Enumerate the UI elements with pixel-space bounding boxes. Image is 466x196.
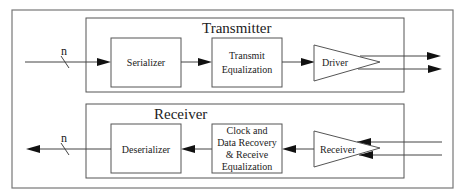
transmitter-section: Transmitter n Serializer Transmit Equali… [25, 18, 442, 92]
transmitter-title: Transmitter [202, 20, 271, 36]
receiver-amp-label: Receiver [320, 144, 356, 155]
serializer-label: Serializer [127, 57, 166, 68]
cdr-label-line1: Clock and [227, 125, 268, 136]
driver-label: Driver [322, 57, 349, 68]
rx-bus-width-label: n [61, 131, 67, 145]
cdr-label-line4: Equalization [222, 161, 273, 172]
transmit-eq-label-line2: Equalization [222, 64, 273, 75]
rx-output-arrow-icon [26, 145, 40, 153]
transmit-equalization-block [212, 38, 282, 87]
tx-output-n-arrow-icon [428, 65, 442, 73]
cdr-label-line3: & Receive [226, 149, 269, 160]
transmit-eq-label-line1: Transmit [229, 50, 265, 61]
deserializer-label: Deserializer [122, 144, 171, 155]
tx-output-p-arrow-icon [427, 52, 441, 60]
receiver-section: Receiver Receiver Clock and Data Recover… [26, 104, 442, 178]
tx-bus-width-label: n [61, 44, 67, 58]
serdes-block-diagram: Transmitter n Serializer Transmit Equali… [0, 0, 466, 196]
cdr-label-line2: Data Recovery [217, 137, 277, 148]
receiver-title: Receiver [154, 106, 207, 122]
